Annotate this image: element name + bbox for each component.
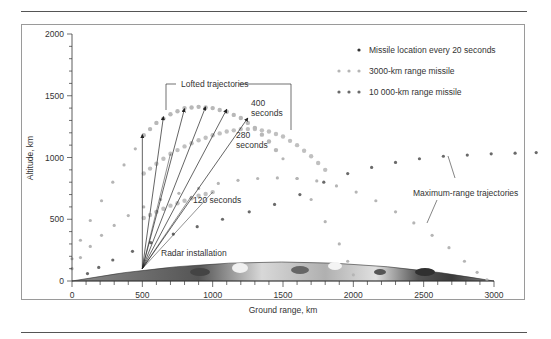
x-tick-label: 3000 — [485, 290, 504, 300]
legend-label-location: Missile location every 20 seconds — [369, 45, 496, 55]
label-radar-installation: Radar installation — [161, 248, 227, 258]
y-tick-label: 500 — [50, 214, 64, 224]
x-tick-label: 1000 — [203, 290, 222, 300]
trajectory-chart: 0500100015002000 05001000150020002500300… — [0, 0, 551, 339]
y-tick-label: 1500 — [45, 91, 64, 101]
x-tick-label: 2000 — [344, 290, 363, 300]
series-2 — [142, 127, 328, 176]
legend-label-10000: 10 000-km range missile — [369, 87, 462, 97]
y-axis-title: Altitude, km — [25, 136, 35, 180]
x-axis-title: Ground range, km — [249, 305, 318, 315]
earth-surface — [72, 262, 494, 281]
y-tick-label: 2000 — [45, 29, 64, 39]
label-400-seconds-1: 400 — [251, 98, 265, 108]
legend-marker-location-icon — [357, 48, 360, 51]
label-400-seconds-2: seconds — [251, 108, 283, 118]
legend-marker-10000-icon — [337, 90, 360, 93]
x-tick-label: 2500 — [414, 290, 433, 300]
y-tick-label: 0 — [59, 276, 64, 286]
x-axis: 050010001500200025003000 — [70, 281, 504, 300]
x-tick-label: 0 — [70, 290, 75, 300]
label-lofted-trajectories: Lofted trajectories — [181, 79, 249, 89]
y-tick-label: 1000 — [45, 153, 64, 163]
x-tick-label: 500 — [135, 290, 149, 300]
legend-label-3000: 3000-km range missile — [369, 66, 455, 76]
label-120-seconds: 120 seconds — [193, 195, 241, 205]
legend: Missile location every 20 seconds 3000-k… — [337, 45, 495, 97]
legend-marker-3000-icon — [337, 69, 360, 72]
label-280-seconds-2: seconds — [236, 140, 268, 150]
x-tick-label: 1500 — [274, 290, 293, 300]
y-axis: 0500100015002000 — [45, 29, 72, 286]
label-maximum-range-trajectories: Maximum-range trajectories — [413, 188, 518, 198]
label-280-seconds-1: 280 — [236, 130, 250, 140]
